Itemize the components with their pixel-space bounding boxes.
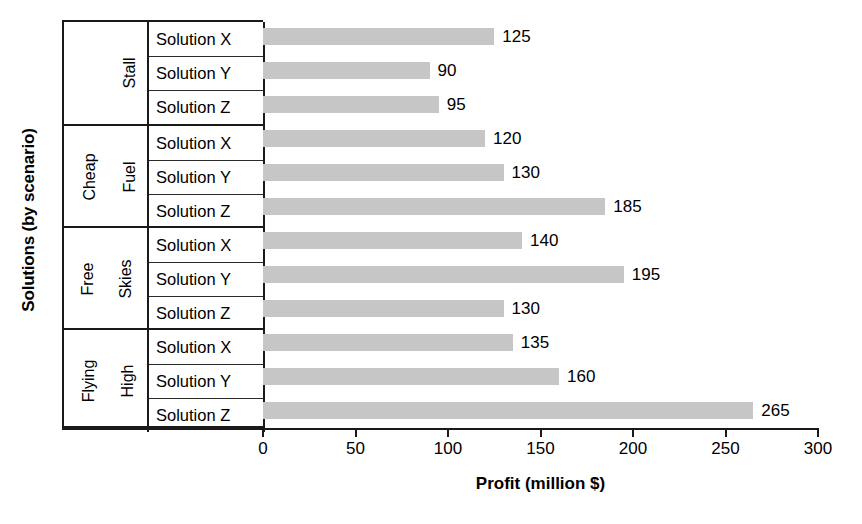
bar-row: 130 <box>263 156 862 190</box>
x-axis-tick-label: 250 <box>711 439 739 459</box>
bar <box>263 96 439 113</box>
scenario-label-line: Cheap <box>81 153 97 200</box>
scenario-label-line: Flying <box>82 360 98 403</box>
scenario-label-line: Stall <box>121 57 137 88</box>
x-axis-tick <box>817 428 819 437</box>
x-axis-tick-label: 50 <box>346 439 365 459</box>
scenario-label-line: High <box>121 365 137 398</box>
bar-value-label: 140 <box>522 224 558 258</box>
x-axis-tick <box>725 428 727 437</box>
bar-row: 195 <box>263 258 862 292</box>
solution-column: Solution X Solution Y Solution Z <box>147 22 265 124</box>
row-label: Solution X <box>149 22 263 56</box>
bars-plot-area: 1259095120130185140195130135160265 <box>263 20 862 428</box>
row-label: Solution Y <box>149 262 263 296</box>
bar-row: 265 <box>263 394 862 428</box>
bar <box>263 28 494 45</box>
row-label: Solution Z <box>149 296 263 330</box>
bar <box>263 334 513 351</box>
scenario-label-line: Skies <box>117 259 133 298</box>
bar <box>263 368 559 385</box>
bar-row: 135 <box>263 326 862 360</box>
x-axis-line <box>62 428 818 430</box>
bar-row: 125 <box>263 20 862 54</box>
x-axis-tick <box>355 428 357 437</box>
scenario-group-cheap-fuel: Cheap Fuel Solution X Solution Y Solutio… <box>64 124 265 226</box>
x-axis-tick-label: 0 <box>258 439 267 459</box>
x-axis-tick <box>262 428 264 437</box>
scenario-group-free-skies: Free Skies Solution X Solution Y Solutio… <box>64 226 265 328</box>
category-label-grid: Stall Solution X Solution Y Solution Z C… <box>62 20 263 428</box>
bar-row: 120 <box>263 122 862 156</box>
bar <box>263 266 624 283</box>
scenario-group-flying-high: Flying High Solution X Solution Y Soluti… <box>64 328 265 430</box>
y-axis-title-text: Solutions (by scenario) <box>19 128 39 311</box>
scenario-label: Stall <box>64 22 147 124</box>
scenario-group-stall: Stall Solution X Solution Y Solution Z <box>64 22 265 124</box>
x-axis-tick <box>447 428 449 437</box>
x-axis-tick <box>540 428 542 437</box>
bar-row: 130 <box>263 292 862 326</box>
bar <box>263 130 485 147</box>
scenario-label: Flying High <box>64 330 147 432</box>
bar-value-label: 90 <box>430 54 457 88</box>
bar-value-label: 195 <box>624 258 660 292</box>
bar-row: 95 <box>263 88 862 122</box>
bar-value-label: 130 <box>504 292 540 326</box>
solution-column: Solution X Solution Y Solution Z <box>147 330 265 432</box>
bar-value-label: 125 <box>494 20 530 54</box>
bar-value-label: 130 <box>504 156 540 190</box>
solution-column: Solution X Solution Y Solution Z <box>147 126 265 228</box>
row-label: Solution Y <box>149 364 263 398</box>
row-label: Solution Y <box>149 160 263 194</box>
row-label: Solution Y <box>149 56 263 90</box>
bar-value-label: 160 <box>559 360 595 394</box>
scenario-label: Free Skies <box>64 228 147 330</box>
x-axis-tick-label: 200 <box>619 439 647 459</box>
x-axis-tick <box>632 428 634 437</box>
bar <box>263 62 430 79</box>
row-label: Solution X <box>149 126 263 160</box>
row-label: Solution Z <box>149 90 263 124</box>
row-label: Solution X <box>149 330 263 364</box>
bar-value-label: 120 <box>485 122 521 156</box>
bar-row: 90 <box>263 54 862 88</box>
scenario-label-line: Fuel <box>121 161 137 192</box>
scenario-label: Cheap Fuel <box>64 126 147 228</box>
bar <box>263 232 522 249</box>
x-axis-title: Profit (million $) <box>263 474 818 494</box>
x-axis-tick-label: 300 <box>804 439 832 459</box>
bar <box>263 198 605 215</box>
scenario-label-line: Free <box>80 263 96 296</box>
bar-value-label: 265 <box>753 394 789 428</box>
bar-value-label: 185 <box>605 190 641 224</box>
x-axis-tick-label: 100 <box>434 439 462 459</box>
row-label: Solution Z <box>149 398 263 432</box>
row-label: Solution Z <box>149 194 263 228</box>
bar-value-label: 95 <box>439 88 466 122</box>
y-axis-title: Solutions (by scenario) <box>0 0 58 440</box>
bar <box>263 402 753 419</box>
bar-row: 185 <box>263 190 862 224</box>
bar <box>263 164 504 181</box>
bar-value-label: 135 <box>513 326 549 360</box>
bar-chart: Solutions (by scenario) Stall Solution X… <box>0 0 862 524</box>
solution-column: Solution X Solution Y Solution Z <box>147 228 265 330</box>
bar-row: 160 <box>263 360 862 394</box>
bar-row: 140 <box>263 224 862 258</box>
x-axis-tick-label: 150 <box>526 439 554 459</box>
bar <box>263 300 504 317</box>
row-label: Solution X <box>149 228 263 262</box>
